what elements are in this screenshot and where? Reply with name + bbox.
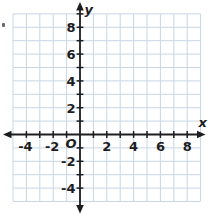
y-tick-label: 8 xyxy=(66,20,75,35)
x-tick-label: -4 xyxy=(18,139,32,154)
x-tick-label: -2 xyxy=(45,139,59,154)
y-tick-label: 6 xyxy=(66,47,75,62)
y-tick-label: 4 xyxy=(66,74,75,89)
origin-label: O xyxy=(65,136,76,151)
y-tick-label: -4 xyxy=(61,181,75,196)
scan-artifact-dot xyxy=(2,23,5,27)
coordinate-plane: -4-224688642-2-4xyO xyxy=(0,0,208,216)
x-tick-label: 8 xyxy=(183,139,192,154)
y-tick-label: -2 xyxy=(61,154,75,169)
y-tick-label: 2 xyxy=(66,101,75,116)
x-tick-label: 6 xyxy=(156,139,165,154)
coordinate-plane-figure: -4-224688642-2-4xyO xyxy=(0,0,208,216)
x-tick-label: 2 xyxy=(102,139,111,154)
x-tick-label: 4 xyxy=(129,139,138,154)
axis-label-y: y xyxy=(85,2,94,17)
axis-label-x: x xyxy=(198,115,208,130)
